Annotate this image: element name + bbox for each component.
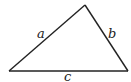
label-c: c <box>64 69 72 82</box>
label-b: b <box>108 26 116 41</box>
triangle-diagram: a b c <box>0 0 131 82</box>
side-b <box>85 5 128 71</box>
label-a: a <box>37 26 45 41</box>
side-a <box>9 5 85 71</box>
triangle-svg: a b c <box>0 0 131 82</box>
